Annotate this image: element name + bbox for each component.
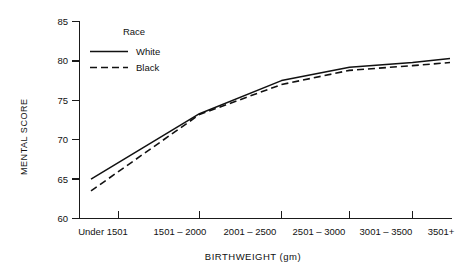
- data-series-group: [91, 59, 450, 191]
- y-tick-label-65: 65: [57, 174, 68, 185]
- x-tick-label-2001-2500: 2001 – 2500: [224, 226, 277, 237]
- y-tick-label-70: 70: [57, 134, 68, 145]
- x-tick-label-3501-plus: 3501+: [428, 226, 455, 237]
- y-tick-label-85: 85: [57, 16, 68, 27]
- y-axis-title: MENTAL SCORE: [19, 98, 29, 175]
- x-tick-marks: [119, 211, 413, 219]
- x-tick-label-2501-3000: 2501 – 3000: [293, 226, 346, 237]
- legend-label-white: White: [136, 46, 160, 57]
- x-tick-label-under-1501: Under 1501: [78, 226, 128, 237]
- y-tick-marks: [72, 22, 80, 219]
- y-tick-label-80: 80: [57, 55, 68, 66]
- y-tick-labels: 85 80 75 70 65 60: [57, 16, 68, 224]
- y-tick-label-60: 60: [57, 213, 68, 224]
- series-line-white: [91, 59, 450, 180]
- chart-container: 85 80 75 70 65 60 MENTAL SCORE Under 150…: [0, 0, 468, 273]
- x-axis-title: BIRTHWEIGHT (gm): [205, 251, 301, 262]
- x-tick-label-3001-3500: 3001 – 3500: [360, 226, 413, 237]
- legend-label-black: Black: [136, 62, 159, 73]
- x-tick-labels: Under 1501 1501 – 2000 2001 – 2500 2501 …: [78, 226, 455, 237]
- legend: Race White Black: [90, 26, 160, 73]
- line-chart: 85 80 75 70 65 60 MENTAL SCORE Under 150…: [0, 0, 468, 273]
- series-line-black: [91, 62, 450, 190]
- x-tick-label-1501-2000: 1501 – 2000: [154, 226, 207, 237]
- y-tick-label-75: 75: [57, 95, 68, 106]
- legend-title: Race: [123, 26, 145, 37]
